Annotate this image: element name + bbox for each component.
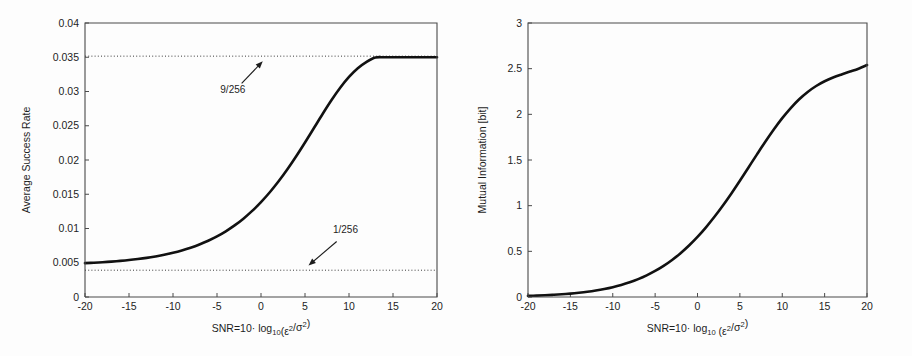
x-tick-label: -15 (563, 300, 578, 312)
y-tick-label: 0.025 (53, 119, 79, 131)
chart-right-svg: -20-15-10-505101520 00.511.522.53 Mutual… (456, 0, 912, 356)
y-tick-label: 1 (516, 199, 522, 211)
x-tick-label: 0 (258, 300, 264, 312)
x-tick-label: 5 (302, 300, 308, 312)
y-tick-label: 2.5 (507, 62, 522, 74)
x-tick-label: 10 (776, 300, 788, 312)
chart-panel-left: -20-15-10-505101520 00.0050.010.0150.020… (0, 0, 456, 356)
y-tick-label: 0 (73, 291, 79, 303)
y-tick-label: 0.02 (59, 154, 80, 166)
x-tick-label: 20 (861, 300, 873, 312)
x-tick-label: 0 (695, 300, 701, 312)
y-tick-label: 0.5 (507, 245, 522, 257)
y-tick-label: 3 (516, 17, 522, 29)
x-tick-label: 15 (387, 300, 399, 312)
x-tick-label: -10 (165, 300, 180, 312)
right-x-axis-title: SNR=10· log10 (ε2/σ2) (647, 317, 748, 337)
left-ticks-y (85, 23, 89, 297)
y-tick-label: 0 (516, 291, 522, 303)
right-ticks-y (528, 23, 532, 297)
left-x-axis-title: SNR=10· log10(ε2/σ2) (212, 317, 310, 337)
average-success-rate-curve (85, 57, 437, 263)
x-tick-label: 5 (737, 300, 743, 312)
right-tick-labels-y: 00.511.522.53 (507, 17, 522, 303)
y-tick-label: 1.5 (507, 154, 522, 166)
y-tick-label: 0.015 (53, 188, 79, 200)
chart-left-svg: -20-15-10-505101520 00.0050.010.0150.020… (0, 0, 456, 356)
y-tick-label: 0.005 (53, 256, 79, 268)
y-tick-label: 0.035 (53, 51, 79, 63)
x-tick-label: -10 (605, 300, 620, 312)
right-tick-labels-x: -20-15-10-505101520 (520, 300, 873, 312)
left-y-axis-title: Average Success Rate (20, 107, 32, 214)
left-ticks-x (85, 293, 437, 297)
x-tick-label: 15 (819, 300, 831, 312)
annotation-label-upper-asymptote: 9/256 (220, 84, 245, 95)
x-axis-title-text: SNR=10· log10 (ε2/σ2) (647, 317, 748, 337)
x-tick-label: -15 (121, 300, 136, 312)
annotation-arrow (242, 65, 260, 83)
right-y-axis-title: Mutual Information [bit] (476, 107, 488, 214)
left-reference-lines (85, 56, 437, 270)
x-tick-label: -20 (520, 300, 535, 312)
y-tick-label: 0.01 (59, 222, 80, 234)
left-tick-labels-y: 00.0050.010.0150.020.0250.030.0350.04 (53, 17, 79, 303)
mutual-information-curve (528, 65, 867, 296)
figure-root: -20-15-10-505101520 00.0050.010.0150.020… (0, 0, 912, 356)
left-tick-labels-x: -20-15-10-505101520 (77, 300, 443, 312)
x-axis-title-text: SNR=10· log10(ε2/σ2) (212, 317, 310, 337)
y-tick-label: 0.03 (59, 85, 80, 97)
y-tick-label: 0.04 (59, 17, 80, 29)
annotation-label-lower-asymptote: 1/256 (333, 224, 358, 235)
x-tick-label: -5 (650, 300, 659, 312)
right-axis-frame (528, 23, 867, 297)
x-tick-label: -5 (212, 300, 221, 312)
x-tick-label: 10 (343, 300, 355, 312)
y-tick-label: 2 (516, 108, 522, 120)
annotation-arrow (312, 242, 336, 263)
chart-panel-right: -20-15-10-505101520 00.511.522.53 Mutual… (456, 0, 912, 356)
x-tick-label: 20 (431, 300, 443, 312)
x-tick-label: -20 (77, 300, 92, 312)
